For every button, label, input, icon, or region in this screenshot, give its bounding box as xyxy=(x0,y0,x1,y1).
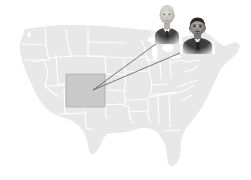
portrait-1-vignette xyxy=(151,2,182,44)
portrait-photo-1[interactable] xyxy=(151,2,182,44)
portrait-2-vignette xyxy=(180,16,215,54)
portrait-photo-2[interactable] xyxy=(180,16,215,54)
map-illustration-figure xyxy=(0,0,251,180)
